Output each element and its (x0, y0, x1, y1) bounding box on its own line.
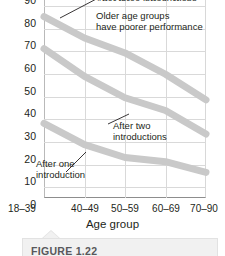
y-tick-40: 40 (0, 108, 36, 119)
y-tick-30: 30 (0, 131, 36, 142)
x-tick-40-49: 40–49 (71, 203, 99, 215)
x-axis-title: Age group (0, 218, 225, 230)
y-tick-60: 60 (0, 63, 36, 74)
x-axis-labels: 18–39 40–49 50–59 60–69 70–90 (0, 203, 225, 219)
y-tick-20: 20 (0, 154, 36, 165)
annotation-one-line2: introduction (36, 169, 85, 180)
annotation-older-line1: Older age groups (96, 10, 203, 21)
x-tick-70-90: 70–90 (190, 203, 218, 215)
y-tick-70: 70 (0, 40, 36, 51)
x-tick-50-59: 50–59 (111, 203, 139, 215)
y-tick-10: 10 (0, 176, 36, 187)
y-tick-80: 80 (0, 18, 36, 29)
caption-box: FIGURE 1.22 (22, 238, 218, 256)
annotation-one-line1: After one (36, 158, 85, 169)
figure-container: 90 80 70 60 50 40 30 20 10 0 (0, 0, 225, 256)
y-tick-50: 50 (0, 86, 36, 97)
annotation-two-line2: introductions (113, 131, 167, 142)
annotation-after-one: After one introduction (36, 158, 85, 180)
y-tick-90: 90 (0, 0, 36, 6)
annotation-older-age-groups: Older age groups have poorer performance (96, 10, 203, 32)
y-axis-labels: 90 80 70 60 50 40 30 20 10 0 (0, 0, 40, 198)
x-tick-18-39: 18–39 (8, 203, 36, 215)
annotation-two-line1: After two (113, 120, 167, 131)
annotation-clipped-top: After three introductions (96, 0, 197, 1)
x-tick-60-69: 60–69 (152, 203, 180, 215)
annotation-older-line2: have poorer performance (96, 21, 203, 32)
annotation-after-two: After two introductions (113, 120, 167, 142)
caption-label: FIGURE 1.22 (31, 245, 97, 256)
